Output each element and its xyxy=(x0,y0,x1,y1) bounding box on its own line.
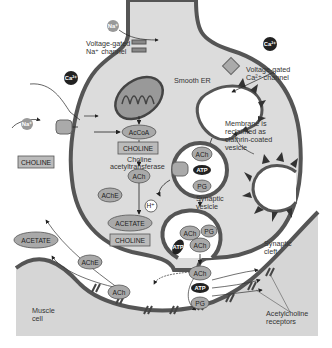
svg-text:ATP: ATP xyxy=(172,244,183,250)
choline-box-lower: CHOLINE xyxy=(110,234,150,246)
svg-text:Ca²⁺: Ca²⁺ xyxy=(65,75,77,81)
svg-text:Na⁺: Na⁺ xyxy=(108,23,118,29)
vesicle-atp: ATP xyxy=(193,165,211,175)
svg-text:Ca²⁺: Ca²⁺ xyxy=(264,41,276,47)
vesicle-transporter xyxy=(172,162,188,176)
svg-text:Na⁺: Na⁺ xyxy=(22,121,32,127)
ach-cytosol: ACh xyxy=(128,169,150,183)
ca-channel-label: Voltage-gated Ca²⁺ channel xyxy=(246,65,292,82)
fusing-pg: PG xyxy=(201,225,217,237)
svg-text:ACh: ACh xyxy=(194,270,207,277)
svg-text:AcCoA: AcCoA xyxy=(129,129,150,136)
released-pg: PG xyxy=(191,297,209,309)
ca-ion-left: Ca²⁺ xyxy=(64,71,78,85)
choline-box-inside: CHOLINE xyxy=(118,142,158,154)
choline-transporter xyxy=(56,120,72,134)
bound-ach: ACh xyxy=(108,285,130,299)
na-channel-label: Voltage-gated Na⁺ channel xyxy=(86,39,132,56)
clathrin-coated-vesicle xyxy=(253,166,296,212)
h-plus-ion: H⁺ xyxy=(145,200,157,212)
svg-text:ATP: ATP xyxy=(194,285,205,291)
na-ion-left: Na⁺ xyxy=(21,118,33,130)
svg-text:ACh: ACh xyxy=(133,173,146,180)
svg-text:AChE: AChE xyxy=(81,259,99,266)
svg-text:CHOLINE: CHOLINE xyxy=(123,145,154,152)
released-ach: ACh xyxy=(189,266,211,280)
released-atp: ATP xyxy=(191,283,209,293)
svg-text:ACh: ACh xyxy=(194,242,207,249)
svg-text:AChE: AChE xyxy=(101,192,119,199)
na-ion-top: Na⁺ xyxy=(107,20,119,32)
vesicle-pg: PG xyxy=(193,180,211,192)
svg-text:ACETATE: ACETATE xyxy=(21,237,51,244)
svg-text:PG: PG xyxy=(204,228,214,235)
fusing-ach-2: ACh xyxy=(190,238,210,252)
svg-text:ACETATE: ACETATE xyxy=(115,220,145,227)
accoa-molecule: AcCoA xyxy=(122,125,156,139)
choline-box-outside: CHOLINE xyxy=(18,156,54,168)
svg-text:CHOLINE: CHOLINE xyxy=(115,237,146,244)
acetate-outside: ACETATE xyxy=(14,232,58,248)
na-channel xyxy=(132,40,146,44)
acetate-inside: ACETATE xyxy=(108,215,152,231)
svg-text:CHOLINE: CHOLINE xyxy=(21,159,52,166)
svg-text:ACh: ACh xyxy=(113,289,126,296)
svg-text:ACh: ACh xyxy=(196,151,209,158)
cholinergic-synapse-diagram: Na⁺ Ca²⁺ Ca²⁺ Na⁺ H⁺ AcCoA CHOLINE ACh A… xyxy=(0,0,332,348)
svg-text:PG: PG xyxy=(197,183,207,190)
ache-cleft: AChE xyxy=(78,255,102,269)
ca-ion-right: Ca²⁺ xyxy=(263,37,277,51)
vesicle-ach: ACh xyxy=(192,147,212,161)
svg-text:H⁺: H⁺ xyxy=(147,202,156,209)
svg-text:PG: PG xyxy=(195,300,205,307)
svg-text:ATP: ATP xyxy=(196,167,207,173)
svg-text:ACh: ACh xyxy=(184,230,197,237)
ache-inside: AChE xyxy=(98,188,122,202)
smooth-er-label: Smooth ER xyxy=(174,76,211,85)
